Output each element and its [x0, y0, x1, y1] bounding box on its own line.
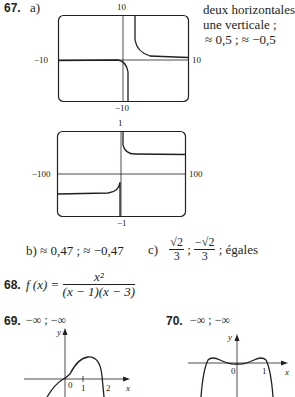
graph70-plot	[0, 0, 295, 397]
graph70-tick-0: 0	[231, 366, 236, 376]
graph70-y-label: y	[228, 332, 232, 342]
graph70-tick-1: 1	[262, 366, 267, 376]
graph70-x-label: x	[285, 367, 289, 377]
